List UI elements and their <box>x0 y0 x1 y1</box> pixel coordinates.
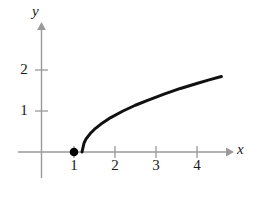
endpoint-dot-marker <box>70 148 79 157</box>
x-axis-label: x <box>237 141 244 158</box>
x-tick-label-1: 1 <box>64 157 84 174</box>
sqrt-curve <box>82 77 221 152</box>
x-tick-label-3: 3 <box>146 157 166 174</box>
graph-figure: 1 2 3 4 1 2 x y <box>0 0 261 197</box>
y-axis-label: y <box>32 3 39 20</box>
y-axis-arrow-icon <box>37 22 46 30</box>
y-tick-label-2: 2 <box>14 61 34 78</box>
x-tick-label-4: 4 <box>187 157 207 174</box>
y-tick-label-1: 1 <box>14 102 34 119</box>
plot-canvas <box>0 0 261 197</box>
x-tick-label-2: 2 <box>105 157 125 174</box>
x-axis-arrow-icon <box>226 148 234 157</box>
